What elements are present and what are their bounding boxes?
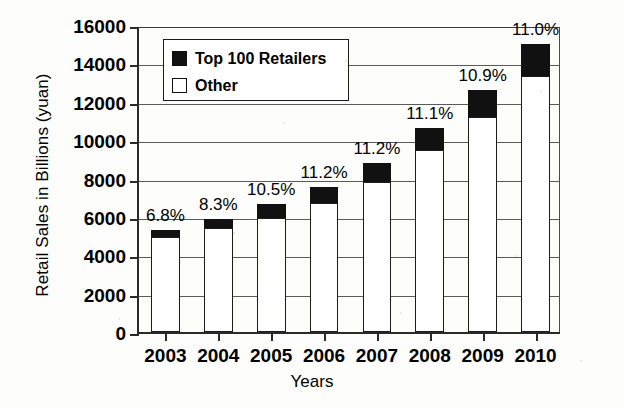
bar-2007: 11.2% xyxy=(363,163,392,332)
bar-2008: 11.1% xyxy=(415,128,444,332)
bar-segment-top100-2010 xyxy=(521,44,550,76)
scan-artifact xyxy=(515,255,517,257)
legend-swatch-filled-icon xyxy=(172,51,187,66)
bar-segment-top100-2009 xyxy=(468,90,497,116)
bar-segment-other-2004 xyxy=(204,228,233,332)
y-tick-label-10000: 10000 xyxy=(73,131,126,153)
y-tick-12000 xyxy=(130,104,139,106)
bar-segment-other-2008 xyxy=(415,150,444,332)
x-tick-label-2003: 2003 xyxy=(144,345,186,367)
bar-segment-top100-2003 xyxy=(151,230,180,237)
bar-segment-other-2003 xyxy=(151,237,180,332)
y-tick-4000 xyxy=(130,257,139,259)
scan-artifact xyxy=(108,135,110,137)
scan-artifact xyxy=(400,312,402,314)
bar-segment-top100-2006 xyxy=(310,187,339,203)
bar-annotation-2005: 10.5% xyxy=(247,180,295,200)
x-tick-2010 xyxy=(536,332,538,341)
bar-annotation-2007: 11.2% xyxy=(353,139,400,159)
bar-annotation-2008: 11.1% xyxy=(406,104,453,124)
bar-segment-top100-2008 xyxy=(415,128,444,151)
bar-segment-other-2005 xyxy=(257,218,286,332)
bar-2003: 6.8% xyxy=(151,230,180,332)
x-tick-label-2008: 2008 xyxy=(409,345,451,367)
x-tick-2009 xyxy=(483,332,485,341)
x-tick-label-2005: 2005 xyxy=(250,345,292,367)
bar-annotation-2003: 6.8% xyxy=(146,206,185,226)
y-tick-8000 xyxy=(130,181,139,183)
scan-artifact xyxy=(118,318,120,320)
legend-swatch-hollow-icon xyxy=(172,78,187,93)
y-tick-label-14000: 14000 xyxy=(73,54,126,76)
y-tick-label-6000: 6000 xyxy=(84,208,126,230)
bar-annotation-2004: 8.3% xyxy=(199,195,238,215)
y-tick-label-16000: 16000 xyxy=(73,16,126,38)
legend-label-top-100: Top 100 Retailers xyxy=(195,50,326,68)
y-tick-label-4000: 4000 xyxy=(84,246,126,268)
x-tick-2006 xyxy=(324,332,326,341)
y-tick-2000 xyxy=(130,296,139,298)
x-tick-label-2006: 2006 xyxy=(303,345,345,367)
plot-right-border xyxy=(559,27,560,332)
bar-2010: 11.0% xyxy=(521,44,550,332)
x-tick-label-2007: 2007 xyxy=(356,345,398,367)
y-axis-title: Retail Sales in Billions (yuan) xyxy=(33,20,53,350)
bar-2004: 8.3% xyxy=(204,219,233,332)
scan-artifact xyxy=(233,232,235,234)
y-tick-label-12000: 12000 xyxy=(73,93,126,115)
y-tick-0 xyxy=(130,334,139,336)
bar-annotation-2009: 10.9% xyxy=(459,66,507,86)
bar-segment-top100-2005 xyxy=(257,204,286,217)
x-tick-label-2010: 2010 xyxy=(514,345,556,367)
scan-artifact xyxy=(300,390,302,392)
y-tick-14000 xyxy=(130,65,139,67)
y-tick-label-0: 0 xyxy=(115,323,126,345)
y-tick-10000 xyxy=(130,142,139,144)
bar-annotation-2006: 11.2% xyxy=(301,163,348,183)
x-axis-title: Years xyxy=(0,372,624,392)
scan-artifact xyxy=(283,122,285,124)
x-tick-2008 xyxy=(430,332,432,341)
y-tick-label-2000: 2000 xyxy=(84,285,126,307)
legend-label-other: Other xyxy=(195,77,238,95)
bar-segment-other-2007 xyxy=(363,182,392,332)
bar-segment-other-2009 xyxy=(468,117,497,332)
x-tick-label-2004: 2004 xyxy=(197,345,239,367)
bar-annotation-2010: 11.0% xyxy=(512,20,559,40)
bar-segment-top100-2004 xyxy=(204,219,233,228)
x-tick-2003 xyxy=(165,332,167,341)
bar-2009: 10.9% xyxy=(468,90,497,332)
x-tick-2004 xyxy=(218,332,220,341)
x-tick-2005 xyxy=(271,332,273,341)
chart-legend: Top 100 Retailers Other xyxy=(163,39,349,101)
gridline-16000 xyxy=(139,27,560,28)
scan-artifact xyxy=(345,60,347,62)
y-tick-6000 xyxy=(130,219,139,221)
x-tick-2007 xyxy=(377,332,379,341)
bar-2005: 10.5% xyxy=(257,204,286,332)
scan-artifact xyxy=(540,90,542,92)
legend-item-other: Other xyxy=(172,72,340,99)
legend-item-top-100: Top 100 Retailers xyxy=(172,45,340,72)
bar-segment-other-2006 xyxy=(310,203,339,332)
bar-segment-top100-2007 xyxy=(363,163,392,182)
bar-2006: 11.2% xyxy=(310,187,339,332)
y-tick-label-8000: 8000 xyxy=(84,170,126,192)
scan-artifact xyxy=(580,360,582,362)
chart-canvas: Retail Sales in Billions (yuan) 02000400… xyxy=(0,0,624,408)
y-tick-16000 xyxy=(130,27,139,29)
x-tick-label-2009: 2009 xyxy=(462,345,504,367)
bar-segment-other-2010 xyxy=(521,76,550,332)
